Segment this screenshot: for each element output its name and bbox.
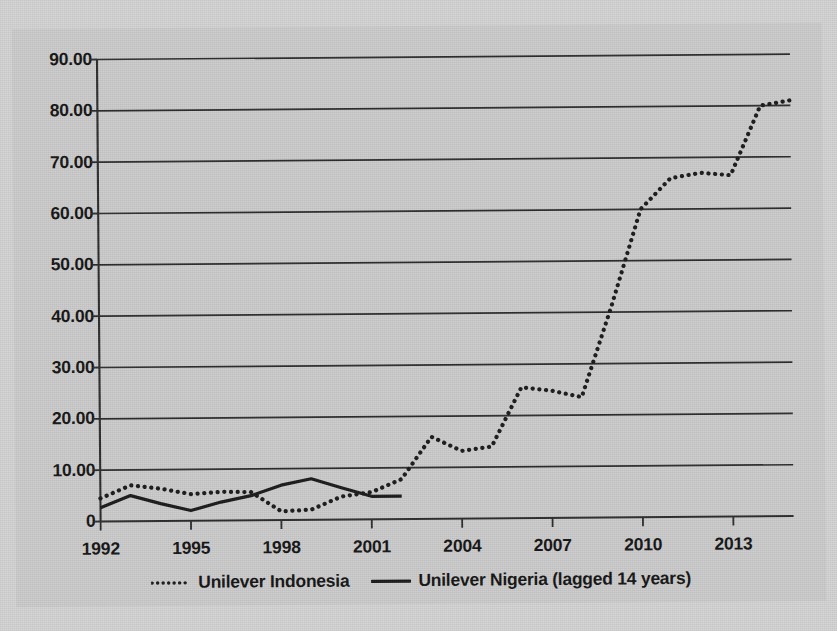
legend-solid-line-icon	[371, 576, 411, 586]
x-axis-tick-label-2004: 2004	[443, 538, 481, 556]
gridline-30	[99, 362, 792, 367]
axes	[90, 60, 101, 522]
chart-svg	[12, 23, 826, 559]
gridline-40	[99, 311, 792, 316]
x-axis-tick-label-1995: 1995	[172, 540, 210, 558]
gridline-50	[99, 259, 792, 264]
legend-dotted-line-icon	[151, 578, 191, 588]
gridline-10	[100, 465, 793, 470]
legend-label-1: Unilever Indonesia	[198, 573, 349, 592]
gridline-70	[98, 157, 791, 162]
scanned-page: 010.0020.0030.0040.0050.0060.0070.0080.0…	[0, 0, 837, 631]
legend-entry-2: Unilever Nigeria (lagged 14 years)	[371, 570, 691, 590]
x-axis-tick-label-1992: 1992	[82, 540, 120, 558]
legend-label-2: Unilever Nigeria (lagged 14 years)	[418, 570, 691, 590]
x-axis-tick-label-2007: 2007	[534, 537, 572, 555]
legend-entry-1: Unilever Indonesia	[151, 573, 349, 592]
chart-plot-area: 010.0020.0030.0040.0050.0060.0070.0080.0…	[12, 23, 826, 559]
y-axis-line	[97, 60, 101, 522]
gridlines	[97, 54, 794, 521]
gridline-20	[100, 413, 793, 418]
x-axis-tick-label-2013: 2013	[714, 535, 752, 553]
x-axis-tick-label-2010: 2010	[624, 536, 662, 554]
gridline-90	[97, 54, 790, 59]
x-axis-tick-label-1998: 1998	[262, 539, 300, 557]
gridline-80	[97, 105, 790, 110]
gridline-60	[98, 208, 791, 213]
chart-figure: 010.0020.0030.0040.0050.0060.0070.0080.0…	[12, 23, 827, 607]
x-axis-tick-label-2001: 2001	[353, 538, 391, 556]
gridline-0	[101, 516, 794, 521]
